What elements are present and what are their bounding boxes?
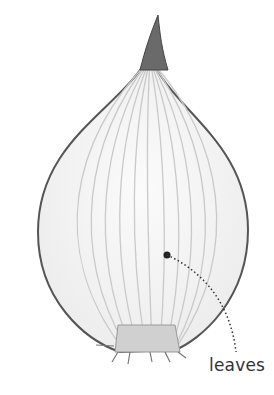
label-leaves: leaves [209, 355, 265, 375]
onion-diagram: leaves [0, 0, 274, 395]
onion-root-plate [115, 325, 180, 352]
onion-illustration [0, 0, 274, 395]
onion-neck [140, 15, 168, 70]
